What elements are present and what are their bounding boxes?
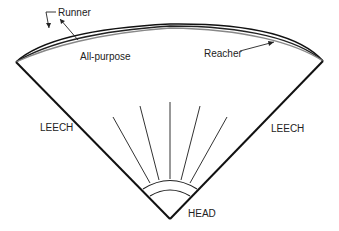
leech-left-edge — [16, 62, 170, 219]
label-head: HEAD — [188, 208, 216, 219]
head-arc-inner — [150, 190, 190, 196]
head-arc-outer — [143, 181, 197, 190]
label-leech-right: LEECH — [271, 123, 304, 134]
label-reacher: Reacher — [204, 48, 242, 59]
leech-right-edge — [170, 61, 323, 219]
spinnaker-diagram: Runner All-purpose Reacher LEECH LEECH H… — [0, 0, 339, 231]
arrowheads — [46, 19, 274, 46]
label-runner: Runner — [58, 7, 91, 18]
radial-seams — [113, 102, 227, 183]
reacher-curve — [16, 28, 323, 62]
all-purpose-curve — [16, 26, 323, 62]
label-leech-left: LEECH — [40, 122, 73, 133]
label-all-purpose: All-purpose — [80, 51, 131, 62]
